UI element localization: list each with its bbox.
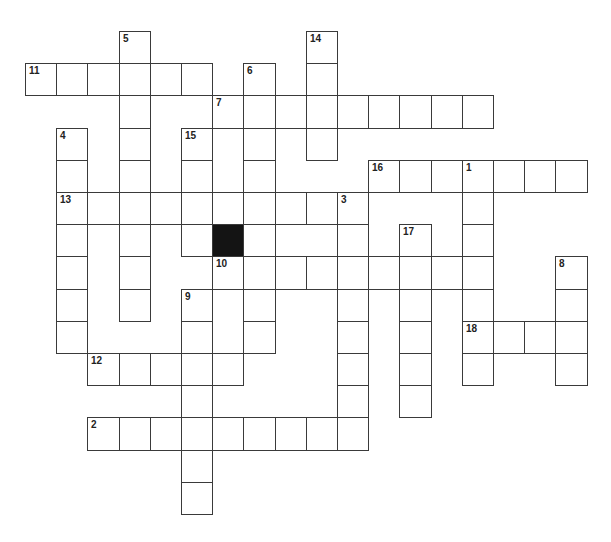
letter-input[interactable] — [556, 354, 587, 385]
crossword-cell-r2-c6[interactable]: 7 — [212, 95, 244, 129]
letter-input[interactable] — [88, 354, 119, 385]
crossword-cell-r7-c6[interactable]: 10 — [212, 256, 244, 290]
crossword-cell-r2-c3[interactable] — [119, 95, 151, 129]
letter-input[interactable] — [400, 225, 431, 256]
crossword-cell-r1-c0[interactable]: 11 — [25, 63, 57, 96]
crossword-cell-r12-c5[interactable] — [181, 417, 213, 451]
crossword-cell-r4-c16[interactable] — [524, 160, 556, 193]
crossword-cell-r10-c3[interactable] — [119, 353, 151, 386]
crossword-cell-r2-c11[interactable] — [368, 95, 400, 129]
crossword-cell-r5-c3[interactable] — [119, 192, 151, 225]
letter-input[interactable] — [244, 418, 275, 450]
crossword-cell-r10-c14[interactable] — [462, 353, 494, 386]
crossword-cell-r4-c17[interactable] — [555, 160, 588, 193]
crossword-cell-r1-c4[interactable] — [150, 63, 182, 96]
letter-input[interactable] — [494, 322, 524, 353]
crossword-cell-r0-c9[interactable]: 14 — [306, 31, 338, 64]
crossword-cell-r10-c5[interactable] — [181, 353, 213, 386]
crossword-cell-r6-c1[interactable] — [56, 224, 88, 257]
crossword-cell-r13-c5[interactable] — [181, 450, 213, 483]
letter-input[interactable] — [463, 354, 493, 385]
letter-input[interactable] — [244, 193, 275, 224]
letter-input[interactable] — [307, 418, 337, 450]
crossword-cell-r8-c5[interactable]: 9 — [181, 289, 213, 322]
crossword-cell-r5-c9[interactable] — [306, 192, 338, 225]
letter-input[interactable] — [556, 322, 587, 353]
letter-input[interactable] — [151, 418, 181, 450]
crossword-cell-r9-c17[interactable] — [555, 321, 588, 354]
crossword-cell-r5-c10[interactable]: 3 — [337, 192, 369, 225]
letter-input[interactable] — [182, 418, 212, 450]
letter-input[interactable] — [307, 129, 337, 160]
letter-input[interactable] — [57, 193, 87, 224]
letter-input[interactable] — [369, 257, 399, 289]
letter-input[interactable] — [244, 290, 275, 321]
crossword-cell-r11-c12[interactable] — [399, 385, 432, 418]
crossword-cell-r8-c1[interactable] — [56, 289, 88, 322]
letter-input[interactable] — [182, 225, 212, 256]
crossword-cell-r8-c14[interactable] — [462, 289, 494, 322]
letter-input[interactable] — [400, 161, 431, 192]
letter-input[interactable] — [120, 129, 150, 160]
crossword-cell-r0-c3[interactable]: 5 — [119, 31, 151, 64]
letter-input[interactable] — [463, 290, 493, 321]
crossword-cell-r2-c7[interactable] — [243, 95, 276, 129]
letter-input[interactable] — [463, 96, 493, 128]
crossword-cell-r2-c13[interactable] — [431, 95, 463, 129]
crossword-cell-r9-c5[interactable] — [181, 321, 213, 354]
letter-input[interactable] — [244, 129, 275, 160]
crossword-cell-r2-c14[interactable] — [462, 95, 494, 129]
crossword-cell-r12-c7[interactable] — [243, 417, 276, 451]
crossword-cell-r2-c8[interactable] — [275, 95, 307, 129]
crossword-cell-r3-c7[interactable] — [243, 128, 276, 161]
crossword-cell-r10-c17[interactable] — [555, 353, 588, 386]
letter-input[interactable] — [276, 193, 306, 224]
crossword-cell-r8-c3[interactable] — [119, 289, 151, 322]
crossword-cell-r12-c10[interactable] — [337, 417, 369, 451]
letter-input[interactable] — [556, 161, 587, 192]
letter-input[interactable] — [182, 322, 212, 353]
letter-input[interactable] — [244, 257, 275, 289]
letter-input[interactable] — [182, 386, 212, 417]
letter-input[interactable] — [276, 418, 306, 450]
letter-input[interactable] — [556, 257, 587, 289]
letter-input[interactable] — [120, 257, 150, 289]
letter-input[interactable] — [369, 96, 399, 128]
crossword-cell-r4-c7[interactable] — [243, 160, 276, 193]
crossword-cell-r1-c7[interactable]: 6 — [243, 63, 276, 96]
crossword-cell-r8-c17[interactable] — [555, 289, 588, 322]
letter-input[interactable] — [338, 386, 368, 417]
crossword-cell-r12-c8[interactable] — [275, 417, 307, 451]
letter-input[interactable] — [57, 161, 87, 192]
crossword-cell-r7-c9[interactable] — [306, 256, 338, 290]
crossword-cell-r7-c1[interactable] — [56, 256, 88, 290]
crossword-cell-r8-c7[interactable] — [243, 289, 276, 322]
crossword-cell-r3-c1[interactable]: 4 — [56, 128, 88, 161]
crossword-cell-r1-c1[interactable] — [56, 63, 88, 96]
crossword-cell-r7-c3[interactable] — [119, 256, 151, 290]
crossword-cell-r4-c12[interactable] — [399, 160, 432, 193]
letter-input[interactable] — [120, 64, 150, 95]
crossword-cell-r11-c10[interactable] — [337, 385, 369, 418]
letter-input[interactable] — [276, 257, 306, 289]
crossword-cell-r4-c11[interactable]: 16 — [368, 160, 400, 193]
letter-input[interactable] — [338, 193, 368, 224]
letter-input[interactable] — [244, 225, 275, 256]
crossword-cell-r9-c7[interactable] — [243, 321, 276, 354]
crossword-cell-r2-c10[interactable] — [337, 95, 369, 129]
letter-input[interactable] — [182, 193, 212, 224]
crossword-cell-r10-c12[interactable] — [399, 353, 432, 386]
letter-input[interactable] — [338, 418, 368, 450]
crossword-cell-r5-c6[interactable] — [212, 192, 244, 225]
letter-input[interactable] — [463, 322, 493, 353]
crossword-cell-r1-c2[interactable] — [87, 63, 120, 96]
letter-input[interactable] — [151, 64, 181, 95]
crossword-cell-r6-c12[interactable]: 17 — [399, 224, 432, 257]
crossword-cell-r9-c1[interactable] — [56, 321, 88, 354]
crossword-cell-r7-c14[interactable] — [462, 256, 494, 290]
crossword-cell-r14-c5[interactable] — [181, 482, 213, 515]
crossword-cell-r10-c2[interactable]: 12 — [87, 353, 120, 386]
crossword-cell-r7-c13[interactable] — [431, 256, 463, 290]
letter-input[interactable] — [120, 32, 150, 63]
crossword-cell-r6-c14[interactable] — [462, 224, 494, 257]
